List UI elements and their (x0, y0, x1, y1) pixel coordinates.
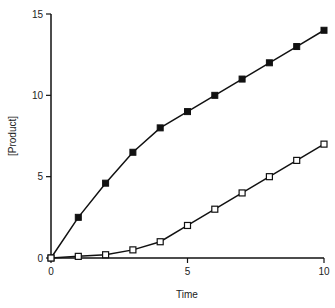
open-square-marker (75, 253, 81, 259)
chart: 0510150510 Time [Product] (0, 0, 335, 308)
open-square-marker (48, 255, 54, 261)
x-tick-label: 0 (48, 266, 54, 277)
filled-square-marker (321, 27, 327, 33)
filled-square-marker (294, 44, 300, 50)
x-tick-label: 5 (185, 266, 191, 277)
x-axis-title: Time (176, 289, 198, 300)
x-tick-label: 10 (318, 266, 330, 277)
filled-square-marker (266, 60, 272, 66)
open-square-marker (239, 190, 245, 196)
filled-square-marker (157, 125, 163, 131)
y-tick-label: 0 (37, 253, 43, 264)
filled-square-marker (239, 76, 245, 82)
y-tick-label: 10 (32, 90, 44, 101)
open-square-marker (321, 141, 327, 147)
open-square-marker (103, 252, 109, 258)
open-square-marker (130, 247, 136, 253)
filled-square-marker (185, 109, 191, 115)
open-square-marker (157, 239, 163, 245)
filled-square-marker (75, 214, 81, 220)
series-layer (48, 27, 327, 261)
open-square-marker (294, 157, 300, 163)
open-square-marker (212, 206, 218, 212)
filled-square-marker (103, 180, 109, 186)
open-square-marker (185, 222, 191, 228)
filled-square-marker (130, 149, 136, 155)
y-tick-label: 15 (32, 9, 44, 20)
y-tick-label: 5 (37, 171, 43, 182)
series-open-squares (48, 141, 327, 261)
y-axis-title: [Product] (7, 116, 18, 156)
axes: 0510150510 (32, 9, 330, 278)
open-square-marker (266, 174, 272, 180)
filled-square-marker (212, 92, 218, 98)
